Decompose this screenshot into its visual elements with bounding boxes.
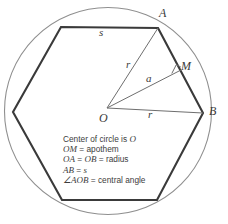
point-label-m: M: [181, 60, 191, 72]
legend-line-radius: OA = OB = radius: [63, 154, 203, 164]
figure-canvas: A B M O s r a r Center of circle is O OM…: [0, 0, 228, 224]
legend-line-angle: ∠AOB = central angle: [63, 175, 203, 185]
side-label-s: s: [99, 27, 103, 38]
legend-side-symbol-ab: AB: [63, 165, 74, 175]
legend-angle-symbol: ∠AOB: [63, 175, 89, 185]
radius-segment-ob: [107, 108, 203, 113]
legend-center-symbol: O: [129, 134, 136, 144]
radius-label-r-oa: r: [126, 59, 130, 70]
point-label-b: B: [209, 105, 216, 117]
radius-segment-oa: [107, 28, 158, 108]
geometry-diagram: [0, 0, 228, 224]
legend-block: Center of circle is O OM = apothem OA = …: [63, 134, 203, 185]
point-label-a: A: [159, 7, 166, 19]
apothem-segment-om: [107, 70, 181, 108]
legend-line-side: AB = s: [63, 165, 203, 175]
radius-label-r-ob: r: [148, 109, 152, 120]
apothem-label-a: a: [146, 73, 152, 84]
legend-radius-symbol-oa: OA: [63, 154, 75, 164]
legend-line-center: Center of circle is O: [63, 134, 203, 144]
legend-side-symbol-s: s: [83, 165, 87, 175]
legend-line-apothem: OM = apothem: [63, 144, 203, 154]
point-label-o: O: [99, 112, 108, 124]
legend-apothem-symbol: OM: [63, 144, 77, 154]
legend-radius-symbol-ob: OB: [84, 154, 96, 164]
